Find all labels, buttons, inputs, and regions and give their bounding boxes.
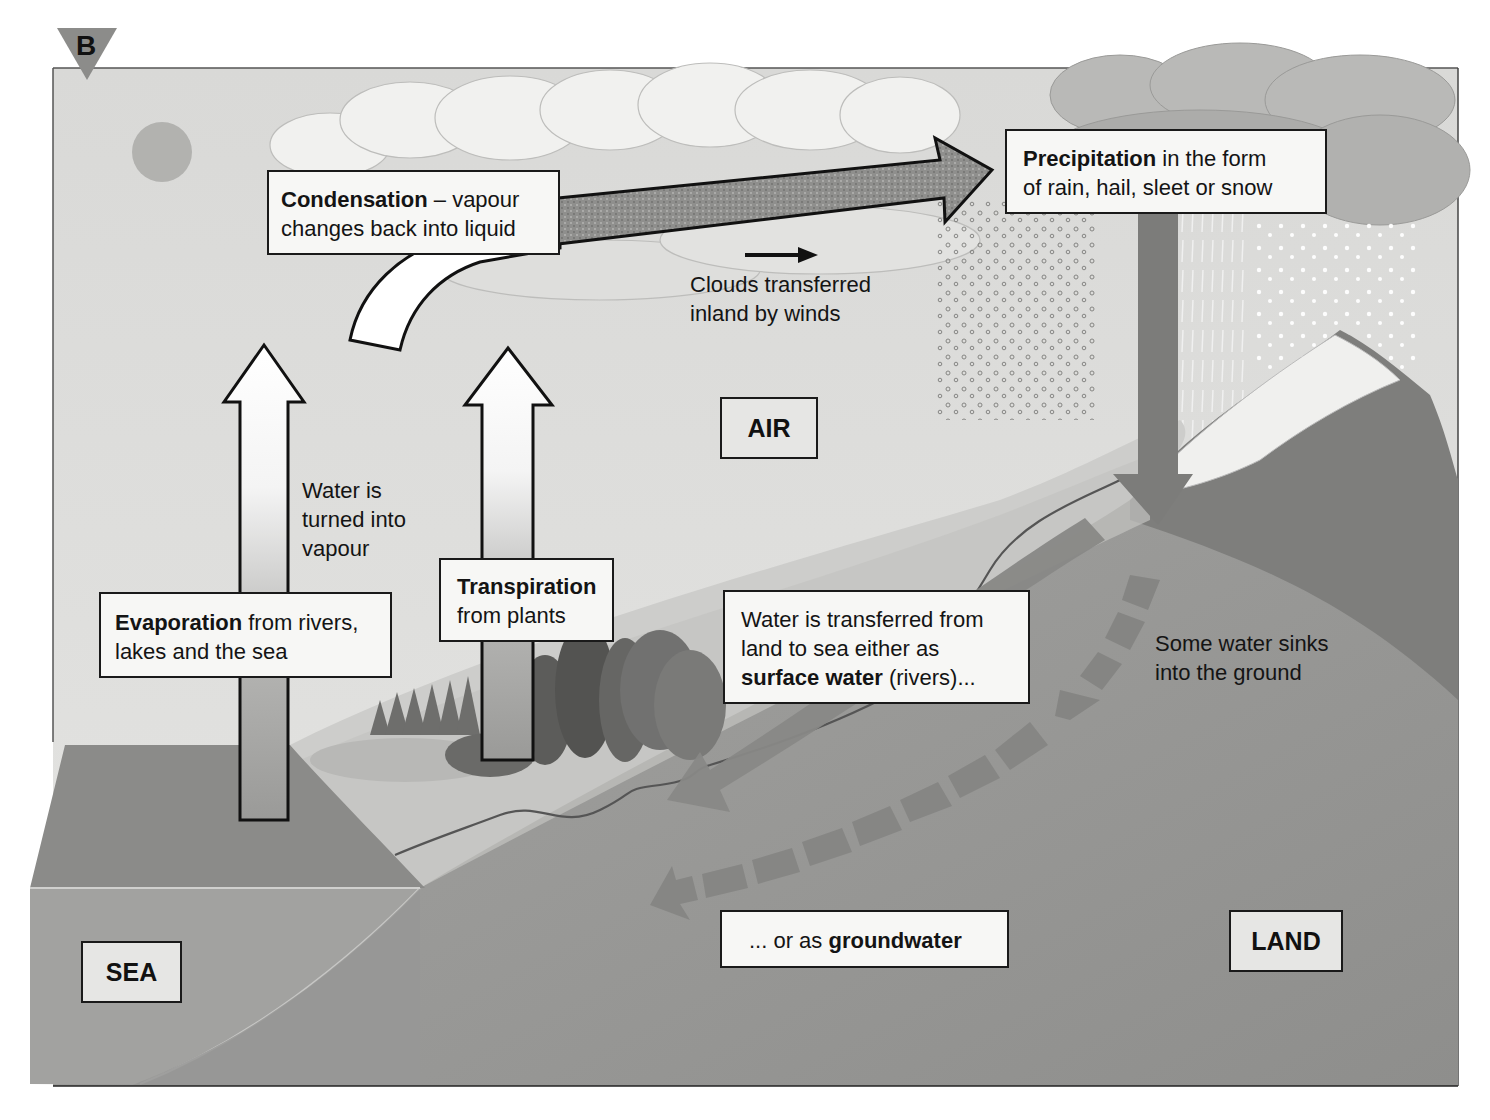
region-sea-label: SEA [81, 941, 182, 1003]
clouds-transferred-note: Clouds transferred inland by winds [690, 270, 871, 328]
sun-icon [132, 122, 192, 182]
water-cycle-diagram: B Condensation – vapour changes back int… [0, 0, 1490, 1120]
region-land-label: LAND [1229, 910, 1343, 972]
section-badge-letter: B [76, 30, 96, 62]
region-air-label: AIR [720, 397, 818, 459]
groundwater-label: ... or as groundwater [720, 910, 1009, 968]
precipitation-label: Precipitation in the form of rain, hail,… [1005, 129, 1327, 214]
infiltration-note: Some water sinks into the ground [1155, 629, 1329, 687]
condensation-label: Condensation – vapour changes back into … [267, 170, 560, 255]
surface-water-label: Water is transferred from land to sea ei… [723, 590, 1030, 704]
evaporation-label: Evaporation from rivers, lakes and the s… [99, 592, 392, 678]
hail-area [935, 200, 1095, 420]
vapour-note: Water is turned into vapour [302, 476, 406, 563]
transpiration-label: Transpiration from plants [439, 558, 614, 642]
